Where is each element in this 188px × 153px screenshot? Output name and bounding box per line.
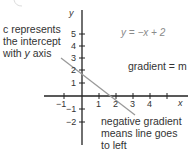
y-tick-label: 3 (71, 53, 76, 63)
negative-gradient-annotation: negative gradient means line goes to lef… (101, 115, 182, 151)
x-tick-label: 3 (130, 99, 135, 109)
gradient-label: gradient = m (128, 60, 187, 72)
y-tick-label: −1 (66, 104, 76, 114)
cropped-marker (14, 0, 22, 6)
line-equation: y = −x + 2 (120, 27, 166, 38)
y-tick-label: 1 (71, 78, 76, 88)
intercept-annotation: c represents the intercept with y axis (2, 23, 61, 59)
x-tick-label: −1 (56, 99, 66, 109)
negative-text-line: to left (101, 139, 127, 151)
x-axis-label: x (177, 98, 183, 108)
x-tick-label: 2 (113, 99, 118, 109)
y-axis-label: y (68, 8, 74, 18)
negative-text-line: negative gradient (101, 115, 182, 127)
intercept-text-line: the intercept (3, 35, 61, 47)
y-tick-label: 5 (71, 29, 76, 39)
intercept-text-line: c represents (3, 23, 61, 35)
intercept-text-line: with y axis (2, 47, 51, 59)
x-tick-label: 1 (96, 99, 101, 109)
line-graph: y x −1 1 2 3 4 5 4 3 2 1 −1 −2 y = −x + … (0, 0, 188, 153)
negative-text-line: means line goes (101, 127, 177, 139)
y-tick-label: 4 (71, 41, 76, 51)
y-tick-label: −2 (66, 117, 76, 127)
y-tick-label: 2 (71, 65, 76, 75)
x-tick-label: 4 (147, 99, 152, 109)
